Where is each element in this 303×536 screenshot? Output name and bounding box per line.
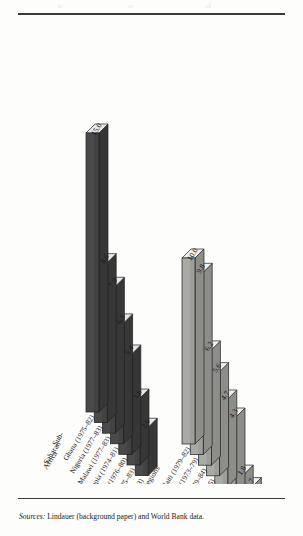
figure-bottom-rule — [18, 498, 285, 499]
top-fragment-3: of — [205, 2, 211, 10]
bar — [182, 249, 204, 444]
top-fragment-2: sc — [128, 2, 134, 10]
bar-side-face — [211, 341, 220, 465]
bar-side-face — [124, 314, 133, 444]
bar — [86, 124, 108, 412]
bar-chart: 2.6Zambia (1978–83)3.6Sudan (1975–83)5.4… — [0, 14, 303, 484]
bar-front-shading — [94, 133, 99, 412]
bar-side-face — [99, 124, 108, 412]
bar-side-face — [220, 363, 229, 476]
source-text: Lindauer (background paper) and World Ba… — [45, 512, 204, 521]
bars-layer — [86, 124, 270, 484]
top-fragment-1: h — [58, 2, 62, 10]
page-top-text-fragments: h sc of — [0, 0, 303, 10]
chart-canvas: 2.6Zambia (1978–83)3.6Sudan (1975–83)5.4… — [0, 14, 303, 484]
bar-side-face — [115, 277, 124, 433]
source-label: Sources: — [19, 512, 45, 521]
figure-page: h sc of 2.6Zambia (1978–83)3.6Sudan (197… — [0, 0, 303, 536]
bar-side-face — [203, 263, 212, 454]
source-note: Sources: Lindauer (background paper) and… — [19, 512, 294, 522]
bar-front-shading — [190, 258, 195, 444]
bar-side-face — [228, 390, 237, 484]
